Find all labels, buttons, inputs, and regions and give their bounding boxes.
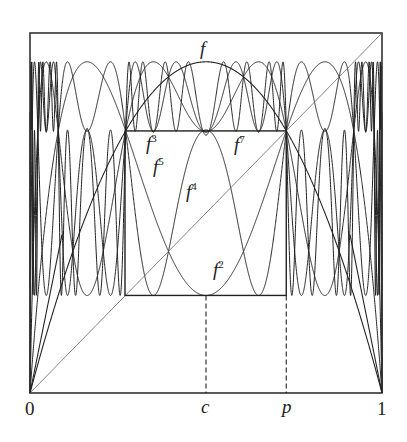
faded-caption <box>90 428 360 436</box>
x-tick-0: 0 <box>25 398 35 420</box>
iterate-curves <box>30 62 382 393</box>
curve-f4 <box>30 62 382 393</box>
curve-f7 <box>30 62 382 393</box>
label-f7: f7 <box>234 133 245 156</box>
x-tick-1: 1 <box>377 398 387 420</box>
x-tick-p: p <box>282 396 292 418</box>
annotation-lines <box>30 235 382 393</box>
label-f2: f2 <box>213 258 224 281</box>
x-tick-c: c <box>201 396 209 418</box>
curve-f3 <box>30 62 382 393</box>
label-f5: f5 <box>153 155 164 178</box>
curve-f2 <box>30 62 382 393</box>
trapezoid-left <box>30 235 62 393</box>
curve-f5 <box>30 62 382 393</box>
label-f4: f4 <box>186 180 197 203</box>
label-f: f <box>200 38 205 60</box>
trapezoid-right <box>350 235 382 393</box>
iterates-plot <box>0 0 407 442</box>
label-f3: f3 <box>146 132 157 155</box>
curve-f1 <box>30 62 382 393</box>
